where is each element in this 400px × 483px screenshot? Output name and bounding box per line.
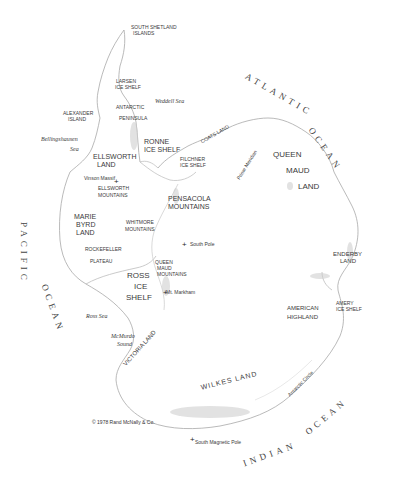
south-shetland-label-2: ISLANDS	[133, 31, 154, 36]
south-magnetic-pole-marker: +	[190, 436, 195, 444]
alexander-island-label-2: ISLAND	[68, 117, 86, 122]
mcmurdo-sound-label-2: Sound	[117, 341, 132, 347]
antarctic-peninsula-label-1: ANTARCTIC	[116, 105, 144, 110]
ellsworth-mountains-label-2: MOUNTAINS	[98, 193, 128, 198]
south-pole-label: South Pole	[190, 242, 214, 247]
south-pole-marker: +	[182, 241, 187, 249]
ross-ice-shelf-label-2: ICE	[134, 283, 147, 291]
queen-maud-mountains-label-3: MOUNTAINS	[157, 272, 187, 277]
pacific-ocean-label-1: PACIFIC	[19, 222, 28, 284]
amery-ice-shelf-label-2: ICE SHELF	[336, 307, 362, 312]
ronne-ice-shelf-label-1: RONNE	[144, 138, 169, 145]
ellsworth-mountains-label-1: ELLSWORTH	[98, 186, 129, 191]
marie-byrd-label-3: LAND	[76, 229, 95, 236]
weddell-sea-label: Weddell Sea	[155, 98, 184, 104]
rockefeller-label-2: PLATEAU	[90, 259, 112, 264]
south-magnetic-pole-label: South Magnetic Pole	[195, 440, 241, 445]
enderby-land-label-2: LAND	[340, 258, 356, 264]
ross-ice-shelf-label-3: SHELF	[126, 294, 152, 302]
queen-maud-land-label-2: MAUD	[286, 167, 310, 175]
whitmore-label-1: WHITMORE	[126, 220, 154, 225]
coastline	[59, 30, 358, 429]
vinson-massif-label: Vinson Massif	[84, 176, 115, 181]
antarctic-peninsula-label-2: PENINSULA	[119, 116, 147, 121]
larsen-label-2: ICE SHELF	[115, 85, 141, 90]
american-highland-label-1: AMERICAN	[287, 305, 319, 311]
mt-markham-label: Mt. Markham	[166, 290, 195, 295]
marie-byrd-label-2: BYRD	[76, 221, 95, 228]
rockefeller-label-1: ROCKEFELLER	[85, 247, 122, 252]
pensacola-label-2: MOUNTAINS	[168, 203, 209, 210]
queen-maud-land-label-1: QUEEN	[273, 151, 301, 159]
american-highland-label-2: HIGHLAND	[287, 314, 318, 320]
mcmurdo-sound-label-1: McMurdo	[111, 333, 135, 339]
queen-maud-land-label-3: LAND	[298, 183, 319, 191]
ellsworth-land-label-2: LAND	[97, 161, 116, 168]
ronne-ice-shelf-label-2: ICE SHELF	[144, 146, 180, 153]
copyright-text: © 1978 Rand McNally & Co.	[92, 420, 155, 425]
bellingshausen-sea-label-2: Sea	[70, 146, 79, 152]
marie-byrd-label-1: MARIE	[74, 213, 96, 220]
pensacola-label-1: PENSACOLA	[168, 195, 211, 202]
filchner-label-2: ICE SHELF	[180, 163, 206, 168]
whitmore-label-2: MOUNTAINS	[125, 227, 155, 232]
ross-ice-shelf-label-1: ROSS	[127, 272, 150, 280]
bellingshausen-sea-label-1: Bellingshausen	[41, 136, 78, 142]
enderby-land-label-1: ENDERBY	[333, 251, 362, 257]
ellsworth-land-label-1: ELLSWORTH	[93, 153, 136, 160]
ross-sea-label: Ross Sea	[86, 313, 108, 319]
